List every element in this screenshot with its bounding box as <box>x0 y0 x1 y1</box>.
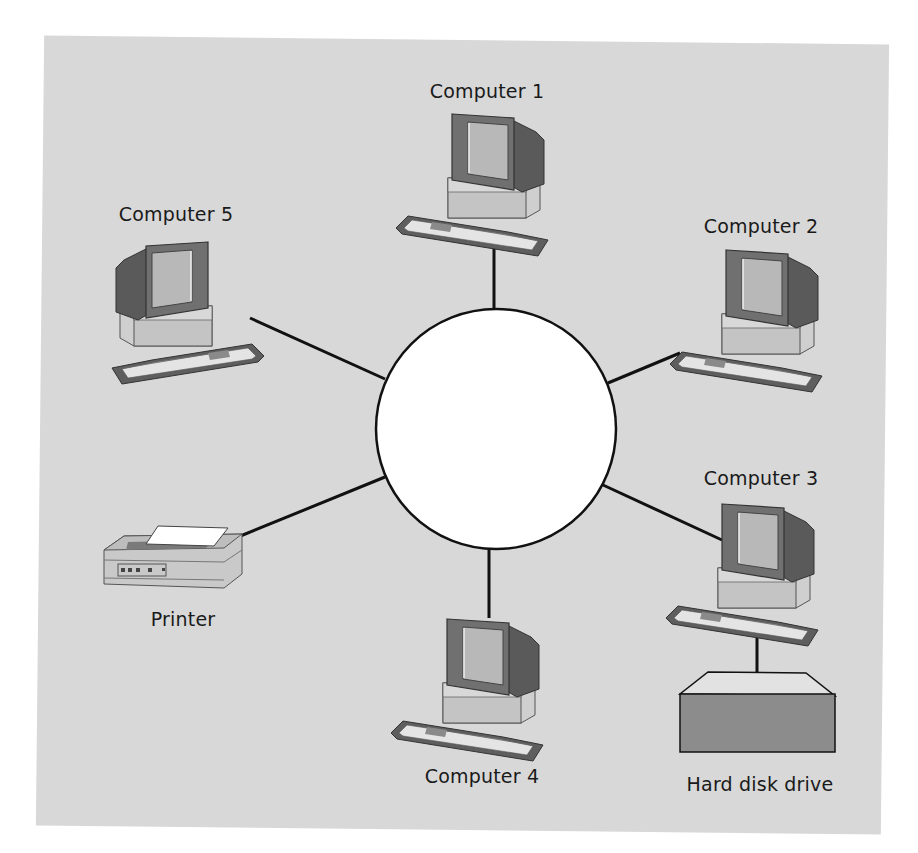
label-computer-3: Computer 3 <box>704 467 819 489</box>
computer-2-icon <box>670 250 822 392</box>
label-computer-4: Computer 4 <box>425 765 540 787</box>
network-hub-circle <box>376 309 616 549</box>
label-hard-disk-drive: Hard disk drive <box>687 773 834 795</box>
hard-disk-drive-icon <box>680 672 835 752</box>
label-computer-2: Computer 2 <box>704 215 819 237</box>
computer-5-icon <box>112 242 264 384</box>
computer-1-icon <box>396 114 548 256</box>
label-computer-1: Computer 1 <box>430 80 545 102</box>
computer-4-icon <box>391 619 543 761</box>
link-computer5 <box>250 318 385 379</box>
network-diagram <box>0 0 918 853</box>
printer-icon <box>104 526 242 588</box>
link-printer <box>238 477 385 537</box>
label-computer-5: Computer 5 <box>119 203 234 225</box>
label-printer: Printer <box>151 608 216 630</box>
link-computer3 <box>603 485 722 540</box>
link-computer2 <box>608 353 680 383</box>
